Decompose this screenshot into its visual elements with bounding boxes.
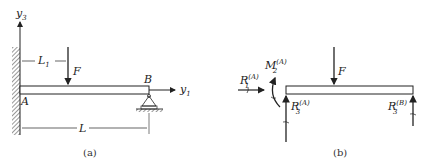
y3-axis-label: y3 — [15, 7, 27, 22]
pin-support — [136, 95, 163, 113]
caption-b: (b) — [333, 147, 347, 158]
r3b-label: R(B)3 — [387, 99, 407, 116]
beam-b — [286, 86, 413, 94]
beam-a — [20, 86, 149, 94]
caption-a: (a) — [83, 147, 97, 158]
figure-b: F R(A)1 M(A)2 R(A)3 R(B)3 (b) — [238, 47, 416, 158]
m2a-moment-arrow — [272, 78, 280, 107]
force-f-label-b: F — [337, 65, 346, 78]
m2a-label: M(A)2 — [264, 58, 287, 75]
dim-l-label: L — [78, 122, 86, 135]
y1-axis-label: y1 — [179, 83, 191, 98]
beam-diagram: y3 y1 A B F L1 L (a) — [0, 0, 427, 167]
fixed-wall — [12, 47, 20, 135]
r3a-label: R(A)3 — [290, 99, 310, 116]
figure-a: y3 y1 A B F L1 L (a) — [12, 7, 191, 158]
force-f-label: F — [72, 65, 81, 78]
point-b-label: B — [143, 73, 152, 86]
r1a-label: R(A)1 — [239, 73, 259, 90]
point-a-label: A — [20, 95, 29, 108]
